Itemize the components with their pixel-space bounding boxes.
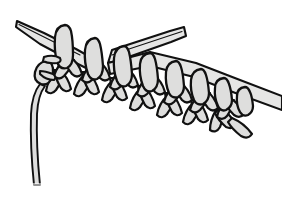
stitch-loop [215, 78, 232, 111]
stitch-loop [114, 46, 132, 86]
knitting-diagram-svg: Knitting stitches on two needles [0, 0, 282, 205]
knitting-illustration: Knitting stitches on two needles [0, 0, 282, 205]
stitch-loop [191, 69, 209, 105]
stitch-loop [140, 53, 158, 91]
stitch-loop [166, 61, 184, 98]
yarn-fade-mask-2 [22, 192, 62, 205]
stitch-loop [237, 87, 253, 116]
stitch-loop [85, 38, 103, 79]
